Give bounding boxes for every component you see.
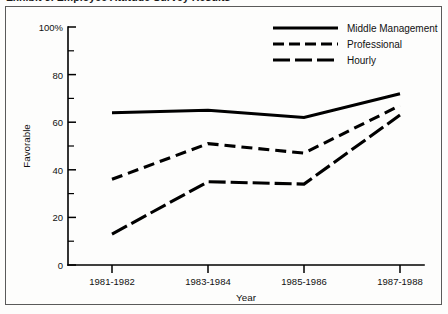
x-tick-label: 1983-1984 bbox=[185, 276, 230, 287]
x-tick-label: 1981-1982 bbox=[89, 276, 134, 287]
legend-label-professional: Professional bbox=[347, 39, 402, 50]
legend: Middle Management Professional Hourly bbox=[273, 23, 438, 66]
x-axis bbox=[68, 265, 424, 273]
x-axis-title: Year bbox=[236, 292, 257, 303]
y-tick-labels: 100% 80 60 40 20 0 bbox=[39, 22, 64, 271]
y-tick-label: 20 bbox=[52, 212, 63, 223]
series-line-middle-management bbox=[112, 94, 400, 118]
line-chart: 100% 80 60 40 20 0 Favorable 1981-1982 1… bbox=[0, 0, 448, 314]
x-tick-labels: 1981-1982 1983-1984 1985-1986 1987-1988 bbox=[89, 276, 422, 287]
figure-page: Exhibit 3. Employee Attitude Survey Resu… bbox=[0, 0, 448, 314]
x-tick-label: 1987-1988 bbox=[377, 276, 422, 287]
y-axis bbox=[68, 27, 76, 265]
y-tick-label: 0 bbox=[58, 260, 63, 271]
y-axis-title: Favorable bbox=[21, 124, 32, 168]
series-group bbox=[112, 94, 400, 234]
y-tick-label: 100% bbox=[39, 22, 64, 33]
legend-label-hourly: Hourly bbox=[347, 55, 376, 66]
series-line-hourly bbox=[112, 115, 400, 234]
chart-svg: 100% 80 60 40 20 0 Favorable 1981-1982 1… bbox=[0, 0, 448, 314]
legend-label-middle-management: Middle Management bbox=[347, 23, 438, 34]
y-tick-label: 80 bbox=[52, 70, 63, 81]
y-tick-label: 60 bbox=[52, 117, 63, 128]
x-tick-label: 1985-1986 bbox=[281, 276, 326, 287]
y-tick-label: 40 bbox=[52, 165, 63, 176]
series-line-professional bbox=[112, 106, 400, 180]
